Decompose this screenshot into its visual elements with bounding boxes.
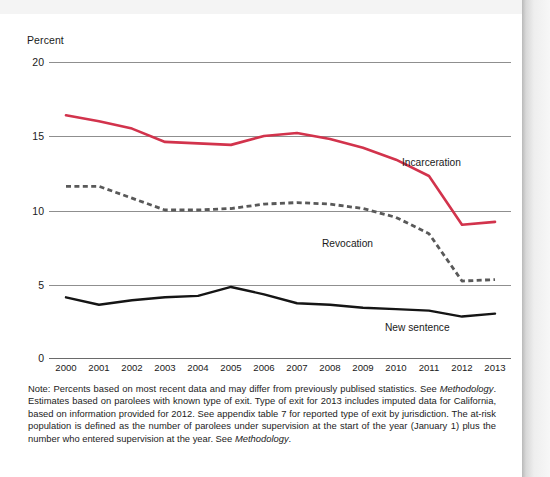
series-line-revocation xyxy=(66,186,495,281)
x-tick-2009: 2009 xyxy=(347,362,379,373)
series-label-incarceration: Incarceration xyxy=(402,157,461,168)
chart-note: Note: Percents based on most recent data… xyxy=(28,383,496,445)
document-page: Percent 20 15 10 5 0 Incarceration Revoc… xyxy=(0,0,522,477)
note-emphasis-1: Methodology xyxy=(440,383,494,394)
x-tick-2008: 2008 xyxy=(314,362,346,373)
series-label-revocation: Revocation xyxy=(322,238,373,249)
x-tick-2004: 2004 xyxy=(182,362,214,373)
x-tick-2001: 2001 xyxy=(83,362,115,373)
x-tick-2013: 2013 xyxy=(479,362,511,373)
x-tick-2002: 2002 xyxy=(116,362,148,373)
page-top-band xyxy=(0,0,522,14)
note-part-1: Note: Percents based on most recent data… xyxy=(28,383,440,394)
series-label-new-sentence: New sentence xyxy=(385,322,450,333)
page-right-edge xyxy=(522,0,550,477)
x-tick-2005: 2005 xyxy=(215,362,247,373)
x-tick-2012: 2012 xyxy=(446,362,478,373)
x-tick-2000: 2000 xyxy=(50,362,82,373)
series-line-incarceration xyxy=(66,115,495,225)
x-tick-2006: 2006 xyxy=(248,362,280,373)
series-line-new-sentence xyxy=(66,287,495,317)
note-part-3: . xyxy=(289,433,292,444)
x-tick-2010: 2010 xyxy=(380,362,412,373)
note-emphasis-2: Methodology xyxy=(235,433,289,444)
x-tick-2003: 2003 xyxy=(149,362,181,373)
line-chart: Percent 20 15 10 5 0 Incarceration Revoc… xyxy=(0,16,522,376)
x-tick-2007: 2007 xyxy=(281,362,313,373)
x-tick-2011: 2011 xyxy=(413,362,445,373)
